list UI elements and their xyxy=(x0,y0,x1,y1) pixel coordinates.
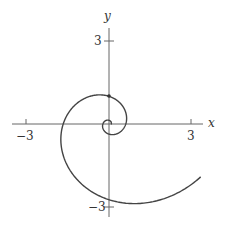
y-tick-label-neg3: −3 xyxy=(88,201,106,213)
x-tick-label-3: 3 xyxy=(187,130,195,142)
y-axis-label: y xyxy=(104,10,111,22)
spiral-chart: y x −3 3 3 −3 xyxy=(0,0,228,227)
x-tick-label-neg3: −3 xyxy=(16,130,34,142)
marked-point xyxy=(107,94,111,98)
spiral-curve xyxy=(61,95,201,204)
plot-area xyxy=(0,0,228,227)
y-tick-label-3: 3 xyxy=(94,35,102,47)
x-axis-label: x xyxy=(208,117,215,129)
